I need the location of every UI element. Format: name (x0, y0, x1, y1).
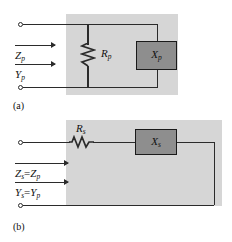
panel-a-reactance-branch-upper-wire (157, 24, 159, 42)
panel-a-resistor-branch-upper-wire (87, 24, 89, 45)
panel-b-admittance-arrow-icon (15, 179, 68, 186)
panel-b-resistor-symbol (69, 135, 94, 149)
panel-a-impedance-label: Zp (15, 42, 55, 63)
panel-b-bottom-wire (23, 205, 214, 207)
panel-b-caption: (b) (13, 222, 25, 232)
panel-b-resistor-label-sub: s (83, 127, 86, 136)
panel-a-admittance-label: Yp (15, 61, 55, 82)
panel-b-top-wire-middle (93, 142, 136, 144)
panel-a-resistor-label-sub: p (108, 52, 112, 61)
panel-b-admittance-label: Ys=Yp (15, 179, 68, 200)
panel-b-reactance-label-main: X (151, 135, 158, 147)
panel-a-admittance-text: Yp (15, 68, 25, 82)
panel-b-resistor-label: Rs (76, 123, 86, 136)
panel-a-reactance-box: Xp (136, 41, 177, 70)
figure-circuit-equivalence: Rp Xp Zp Yp (a) (0, 0, 232, 242)
panel-a-impedance-arrow-icon (15, 42, 55, 49)
panel-a-resistor-branch-lower-wire (87, 66, 89, 88)
panel-a-top-wire (23, 24, 158, 26)
panel-a-caption: (a) (13, 101, 24, 111)
panel-a-reactance-branch-lower-wire (157, 70, 159, 88)
panel-b-impedance-arrow-icon (15, 160, 68, 167)
panel-b-top-wire-left (23, 142, 70, 144)
panel-a-reactance-label-main: X (151, 48, 158, 60)
panel-a-resistor-label-main: R (101, 47, 108, 59)
panel-a-resistor-symbol (80, 43, 96, 67)
panel-b-top-wire-right (177, 142, 215, 144)
panel-b-admittance-text: Ys=Yp (15, 186, 40, 200)
panel-b-reactance-box-label: Xs (151, 136, 161, 149)
panel-a-reactance-box-label: Xp (151, 49, 161, 62)
panel-a-admittance-arrow-icon (15, 61, 55, 68)
panel-b-reactance-label-sub: s (158, 140, 161, 149)
panel-a-reactance-label-sub: p (158, 53, 162, 62)
panel-a-resistor-label: Rp (101, 48, 111, 61)
panel-b-impedance-label: Zs=Zp (15, 160, 68, 181)
panel-b-reactance-box: Xs (135, 129, 177, 155)
panel-a-bottom-wire (23, 87, 158, 89)
panel-b-right-wire (214, 142, 216, 206)
panel-b-resistor-label-main: R (76, 122, 83, 134)
